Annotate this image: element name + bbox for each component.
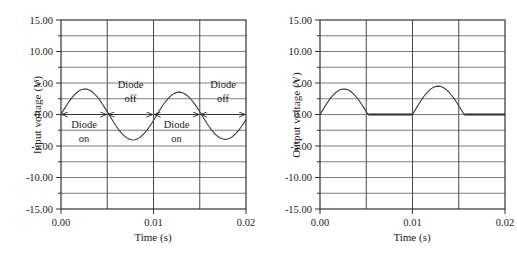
- x-tick-label-input-2: 0.02: [237, 217, 255, 228]
- x-axis-label-input: Time (s): [60, 231, 246, 243]
- annotation-label-diode-on-1-line2: on: [79, 133, 90, 144]
- chart-svg-output: 15.00 10.00 5.00 0.00 -5.00 -10.00 -15.0…: [259, 0, 517, 254]
- x-ticks-output: [320, 209, 505, 214]
- figure-halfwave-rectifier: Input voltage (V): [0, 0, 517, 254]
- y-tick-label-input-4: -5.00: [31, 141, 53, 152]
- y-tick-label-input-0: 15.00: [29, 15, 53, 26]
- x-tick-label-output-0: 0.00: [311, 217, 329, 228]
- annotation-label-diode-off-2-line1: Diode: [210, 79, 236, 90]
- x-tick-label-input-1: 0.01: [144, 217, 162, 228]
- annotation-label-diode-on-2-line1: Diode: [164, 119, 190, 130]
- y-tick-label-output-1: 10.00: [288, 46, 312, 57]
- x-tick-label-output-2: 0.02: [496, 217, 514, 228]
- y-tick-label-output-4: -5.00: [290, 141, 312, 152]
- chart-panel-input-voltage: Input voltage (V): [0, 0, 258, 254]
- annotation-label-diode-off-2-line2: off: [217, 93, 230, 104]
- y-ticks-input: [56, 20, 61, 209]
- x-tick-label-input-0: 0.00: [52, 217, 70, 228]
- annotation-label-diode-on-2-line2: on: [171, 133, 182, 144]
- y-tick-label-output-3: 0.00: [294, 109, 312, 120]
- x-axis-label-output: Time (s): [319, 231, 505, 243]
- y-tick-label-input-5: -10.00: [26, 172, 53, 183]
- annotation-label-diode-off-1-line2: off: [124, 93, 137, 104]
- x-ticks-input: [61, 209, 246, 214]
- y-ticks-output: [315, 20, 320, 209]
- annotation-label-diode-on-1-line1: Diode: [71, 119, 97, 130]
- y-tick-label-input-1: 10.00: [29, 46, 53, 57]
- y-tick-label-output-5: -10.00: [285, 172, 312, 183]
- chart-panel-output-voltage: Output voltage (V): [259, 0, 517, 254]
- x-tick-label-output-1: 0.01: [403, 217, 421, 228]
- y-tick-label-input-2: 5.00: [35, 78, 53, 89]
- annotation-label-diode-off-1-line1: Diode: [118, 79, 144, 90]
- chart-svg-input: 15.00 10.00 5.00 0.00 -5.00 -10.00 -15.0…: [0, 0, 258, 254]
- y-tick-label-output-6: -15.00: [285, 204, 312, 215]
- y-tick-label-input-3: 0.00: [35, 109, 53, 120]
- y-tick-label-output-2: 5.00: [294, 78, 312, 89]
- y-tick-label-input-6: -15.00: [26, 204, 53, 215]
- y-tick-label-output-0: 15.00: [288, 15, 312, 26]
